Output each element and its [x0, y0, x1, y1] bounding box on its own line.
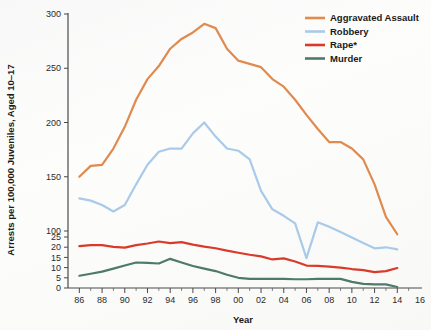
x-tick-label: 10: [347, 295, 357, 305]
x-tick-label: 14: [392, 295, 402, 305]
x-tick-label: 16: [415, 295, 425, 305]
legend-label: Murder: [330, 53, 363, 64]
series-line-murder: [79, 259, 397, 287]
y-tick-label: 150: [46, 172, 61, 182]
y-tick-label: 20: [51, 242, 61, 252]
y-axis-ticks: 0510152025100150200250300: [46, 9, 68, 293]
x-tick-label: 08: [324, 295, 334, 305]
x-tick-label: 98: [211, 295, 221, 305]
legend-label: Aggravated Assault: [330, 12, 420, 23]
x-tick-label: 88: [97, 295, 107, 305]
y-tick-label: 300: [46, 9, 61, 19]
y-tick-label: 15: [51, 253, 61, 263]
x-tick-label: 06: [301, 295, 311, 305]
x-axis-title: Year: [233, 314, 253, 325]
x-tick-label: 90: [120, 295, 130, 305]
legend-label: Rape*: [330, 39, 357, 50]
x-tick-label: 04: [279, 295, 289, 305]
line-chart: 0510152025100150200250300 86889092949698…: [0, 0, 431, 330]
x-tick-label: 92: [142, 295, 152, 305]
y-tick-label: 10: [51, 263, 61, 273]
series-line-rape: [79, 241, 397, 272]
y-tick-label: 5: [56, 273, 61, 283]
legend-label: Robbery: [330, 26, 369, 37]
x-tick-label: 94: [165, 295, 175, 305]
series-line-robbery: [79, 123, 397, 259]
x-axis-ticks: 86889092949698000204060810121416: [74, 288, 425, 305]
chart-legend: Aggravated AssaultRobberyRape*Murder: [305, 12, 420, 64]
x-tick-label: 02: [256, 295, 266, 305]
x-tick-label: 00: [233, 295, 243, 305]
x-tick-label: 96: [188, 295, 198, 305]
y-tick-label: 100: [46, 226, 61, 236]
x-tick-label: 86: [74, 295, 84, 305]
y-axis-title: Arrests per 100,000 Juveniles, Aged 10–1…: [5, 64, 16, 255]
y-tick-label: 200: [46, 118, 61, 128]
x-tick-label: 12: [370, 295, 380, 305]
y-tick-label: 0: [56, 283, 61, 293]
chart-figure: 0510152025100150200250300 86889092949698…: [0, 0, 431, 330]
y-tick-label: 250: [46, 63, 61, 73]
